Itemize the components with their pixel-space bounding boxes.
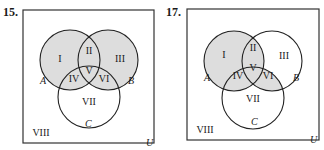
region-viii: VIII [196, 124, 213, 135]
set-label-u: U [146, 137, 154, 148]
set-label-c: C [251, 116, 258, 127]
set-label-b: B [128, 75, 134, 86]
region-ii: II [250, 42, 257, 53]
venn-figure: 15. I II III IV V VI VII VIII A B C U 17… [0, 0, 324, 150]
shaded-area [204, 31, 283, 91]
venn-diagram-17: 17. I II III IV V VI VII VIII A B C U [166, 5, 319, 145]
set-label-c: C [85, 118, 92, 129]
region-v: V [85, 65, 93, 76]
set-label-a: A [39, 75, 47, 86]
set-label-b: B [293, 72, 299, 83]
region-vi: VI [263, 70, 274, 81]
region-iii: III [279, 50, 289, 61]
region-iv: IV [69, 73, 80, 84]
region-vi: VI [99, 73, 110, 84]
problem-number: 15. [3, 5, 18, 19]
problem-number: 17. [166, 5, 181, 19]
set-label-u: U [310, 134, 318, 145]
set-label-a: A [203, 72, 211, 83]
venn-diagram-15: 15. I II III IV V VI VII VIII A B C U [3, 5, 154, 148]
region-ii: II [86, 45, 93, 56]
region-iii: III [115, 53, 125, 64]
region-iv: IV [233, 70, 244, 81]
region-vii: VII [246, 93, 260, 104]
region-i: I [222, 49, 225, 60]
region-v: V [249, 62, 257, 73]
region-viii: VIII [32, 127, 49, 138]
region-i: I [58, 53, 61, 64]
region-vii: VII [82, 96, 96, 107]
